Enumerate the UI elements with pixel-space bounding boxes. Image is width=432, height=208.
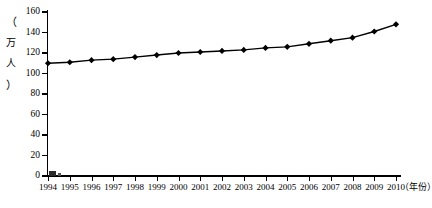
data-point-marker [241, 47, 247, 53]
y-tick [42, 155, 48, 156]
y-tick-label: 40 [0, 130, 40, 140]
x-tick [244, 176, 245, 181]
x-tick [179, 176, 180, 181]
data-point-marker [328, 38, 334, 44]
data-point-marker [219, 48, 225, 54]
x-tick [113, 176, 114, 181]
data-point-marker [262, 45, 268, 51]
series-line [48, 24, 396, 63]
y-axis-label-char-0: （ [3, 17, 19, 28]
data-point-marker [154, 52, 160, 58]
x-tick [135, 176, 136, 181]
y-tick-label: 20 [0, 151, 40, 161]
origin-artifact-mark [49, 171, 56, 176]
x-tick [157, 176, 158, 181]
x-tick [374, 176, 375, 181]
data-point-marker [197, 49, 203, 55]
data-point-marker [67, 59, 73, 65]
data-point-marker [393, 21, 399, 27]
x-tick [70, 176, 71, 181]
x-tick [48, 176, 49, 181]
x-tick [353, 176, 354, 181]
y-tick-label: 80 [0, 89, 40, 99]
data-point-marker [175, 50, 181, 56]
data-point-marker [306, 41, 312, 47]
y-tick [42, 134, 48, 135]
data-point-marker [132, 54, 138, 60]
x-tick [396, 176, 397, 181]
series-plot [0, 0, 432, 208]
y-tick [42, 52, 48, 53]
origin-artifact-mark-small [58, 173, 61, 176]
x-tick [92, 176, 93, 181]
y-tick-label: 60 [0, 110, 40, 120]
chart-container: （ 万 人 ） 020406080100120140160 1994199519… [0, 0, 432, 208]
y-axis-label-char-1: 万 [3, 38, 19, 49]
data-point-marker [110, 56, 116, 62]
data-point-marker [349, 35, 355, 41]
data-point-marker [88, 57, 94, 63]
y-tick [42, 93, 48, 94]
x-tick [331, 176, 332, 181]
data-point-marker [284, 44, 290, 50]
y-tick-label: 120 [0, 48, 40, 58]
y-tick-label: 140 [0, 28, 40, 38]
x-axis-line [47, 175, 401, 176]
y-tick-label: 160 [0, 7, 40, 17]
y-tick [42, 11, 48, 12]
x-tick [200, 176, 201, 181]
y-tick [42, 73, 48, 74]
y-tick-label: 0 [0, 171, 40, 181]
y-axis-label-char-2: 人 [3, 59, 19, 70]
series-markers [45, 21, 399, 66]
y-tick-label: 100 [0, 69, 40, 79]
x-tick [222, 176, 223, 181]
x-tick [266, 176, 267, 181]
data-point-marker [371, 28, 377, 34]
y-tick [42, 32, 48, 33]
x-tick [309, 176, 310, 181]
x-tick [287, 176, 288, 181]
y-tick [42, 114, 48, 115]
x-axis-label: （年份） [400, 183, 432, 192]
